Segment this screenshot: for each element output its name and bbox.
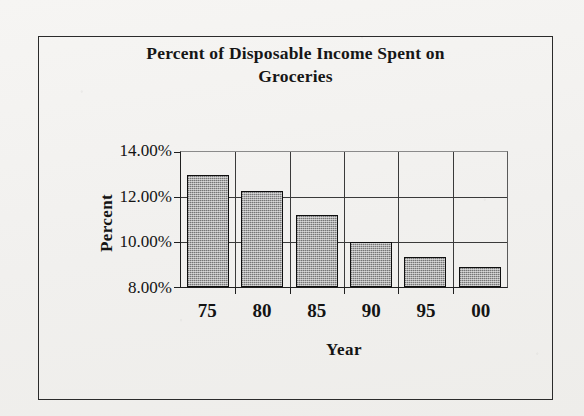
bar[interactable] [404, 257, 446, 287]
x-tick-label-95: 95 [399, 300, 454, 322]
x-tick-label-85: 85 [289, 300, 344, 322]
x-tick-label-75: 75 [180, 300, 235, 322]
y-tick-label-8: 8.00% [88, 278, 172, 298]
x-tick-label-00: 00 [453, 300, 508, 322]
x-axis-title: Year [180, 340, 508, 360]
x-tick-mark-3 [344, 287, 345, 294]
bar-slot [290, 152, 344, 287]
y-tick-label-10: 10.00% [88, 232, 172, 252]
x-axis-tick-labels: 75 80 85 90 95 00 [180, 300, 508, 322]
bar-slot [453, 152, 507, 287]
x-tick-mark-4 [398, 287, 399, 294]
bar[interactable] [350, 242, 392, 287]
bar-slot [181, 152, 235, 287]
bar[interactable] [241, 191, 283, 287]
x-tick-label-90: 90 [344, 300, 399, 322]
x-tick-mark-2 [290, 287, 291, 294]
chart-title-line-2: Groceries [38, 65, 553, 88]
bar-slot [235, 152, 289, 287]
y-tick-mark-10 [174, 242, 181, 243]
x-tick-label-80: 80 [235, 300, 290, 322]
bar[interactable] [296, 215, 338, 287]
bar-series [181, 152, 507, 287]
chart-title-line-1: Percent of Disposable Income Spent on [38, 42, 553, 65]
y-tick-mark-12 [174, 197, 181, 198]
y-tick-mark-14 [174, 152, 181, 153]
y-tick-mark-8 [174, 287, 181, 288]
bar[interactable] [459, 267, 501, 287]
y-tick-label-14: 14.00% [88, 141, 172, 161]
bar[interactable] [187, 175, 229, 288]
x-tick-mark-1 [235, 287, 236, 294]
chart-title: Percent of Disposable Income Spent on Gr… [38, 42, 553, 88]
y-axis-tick-labels: 8.00% 10.00% 12.00% 14.00% [88, 151, 172, 288]
x-tick-mark-5 [453, 287, 454, 294]
bar-slot [398, 152, 452, 287]
y-tick-label-12: 12.00% [88, 187, 172, 207]
bar-slot [344, 152, 398, 287]
plot-area [180, 151, 508, 288]
